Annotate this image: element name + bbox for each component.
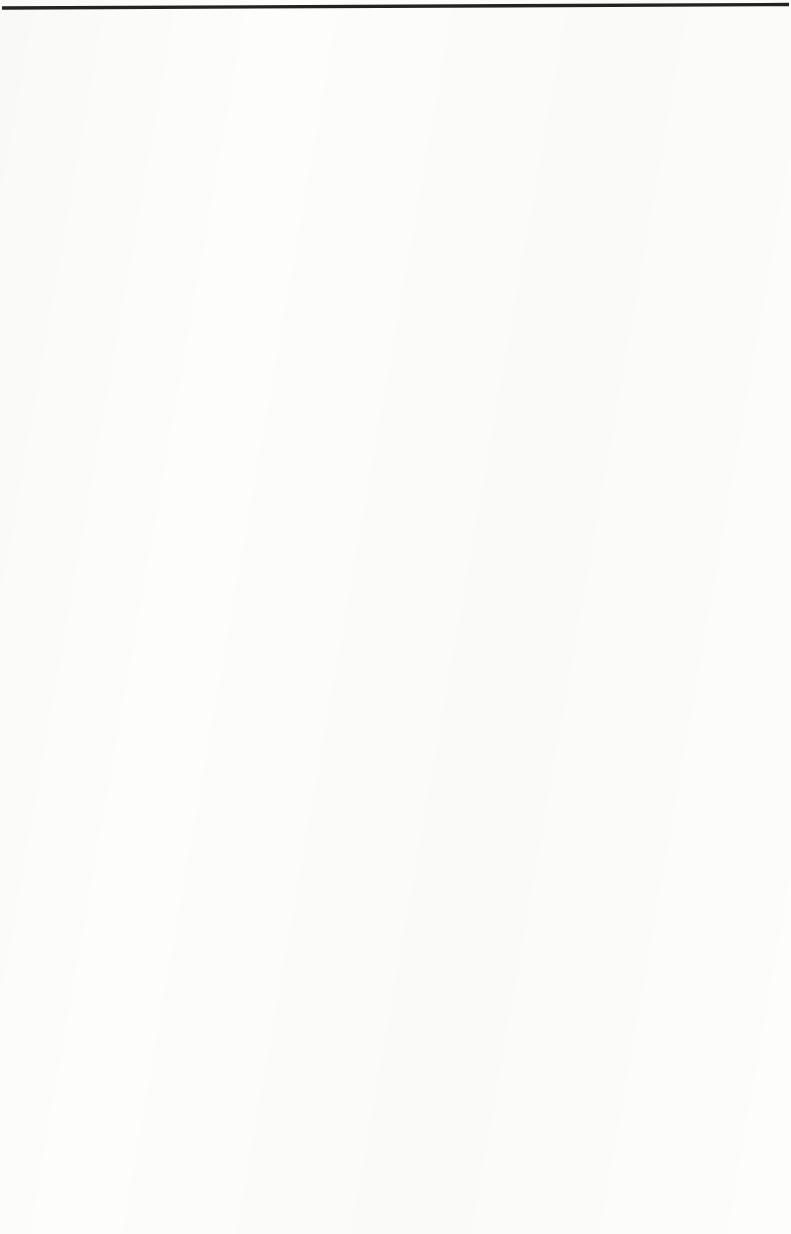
growth-bands-figure bbox=[0, 0, 791, 1234]
figure-root bbox=[0, 0, 791, 1234]
page-top-rule bbox=[2, 5, 789, 9]
